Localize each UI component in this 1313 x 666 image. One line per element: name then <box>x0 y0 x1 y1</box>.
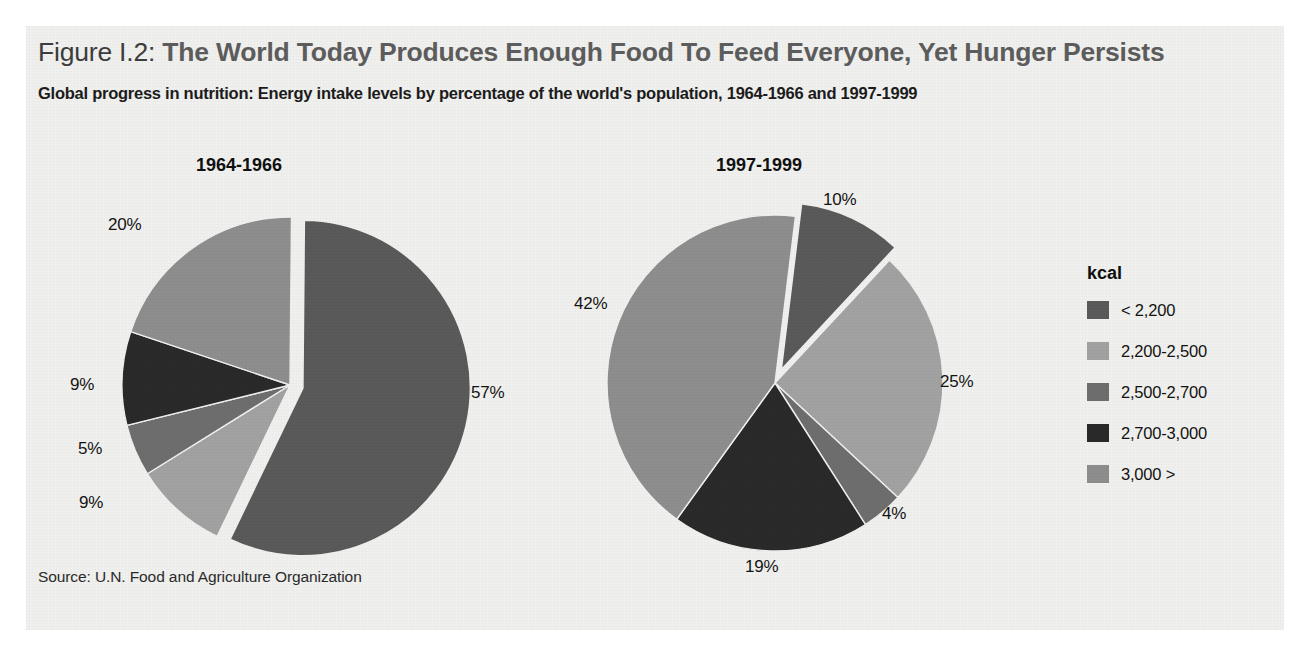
legend-item: 2,700-3,000 <box>1087 422 1207 444</box>
legend-item-label: 2,500-2,700 <box>1121 383 1207 402</box>
legend-swatch-icon <box>1087 383 1109 401</box>
pie-chart-1997-1999: 1997-199910%25%4%19%42% <box>0 0 1313 666</box>
pie-svg <box>0 0 1313 666</box>
legend-swatch-icon <box>1087 424 1109 442</box>
legend-item-label: < 2,200 <box>1121 301 1175 320</box>
pie-slice-label: 25% <box>940 372 973 392</box>
legend-item: 2,500-2,700 <box>1087 381 1207 403</box>
legend-title: kcal <box>1087 263 1122 284</box>
source-note: Source: U.N. Food and Agriculture Organi… <box>38 568 362 586</box>
legend-item-label: 2,200-2,500 <box>1121 342 1207 361</box>
legend-item: 2,200-2,500 <box>1087 340 1207 362</box>
pie-slice-label: 4% <box>882 504 906 524</box>
legend-item: 3,000 > <box>1087 463 1175 485</box>
legend-swatch-icon <box>1087 301 1109 319</box>
legend-swatch-icon <box>1087 465 1109 483</box>
pie-slice-label: 10% <box>823 190 856 210</box>
legend-item-label: 2,700-3,000 <box>1121 424 1207 443</box>
pie-slice-label: 19% <box>745 557 778 577</box>
legend-item-label: 3,000 > <box>1121 465 1175 484</box>
legend-item: < 2,200 <box>1087 299 1175 321</box>
pie-slice-label: 42% <box>574 294 607 314</box>
legend-swatch-icon <box>1087 342 1109 360</box>
figure-root: Figure I.2: The World Today Produces Eno… <box>0 0 1313 666</box>
